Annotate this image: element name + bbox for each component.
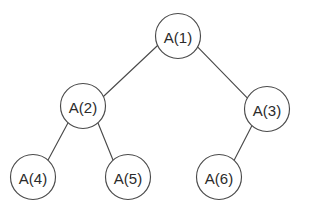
- node-a1[interactable]: A(1): [156, 14, 201, 59]
- node-a6-label: A(6): [205, 170, 233, 187]
- node-a3[interactable]: A(3): [245, 87, 290, 132]
- node-a4-label: A(4): [19, 170, 47, 187]
- node-a6[interactable]: A(6): [197, 155, 242, 200]
- node-a2[interactable]: A(2): [61, 84, 106, 129]
- node-a1-label: A(1): [164, 29, 192, 46]
- node-a3-label: A(3): [253, 102, 281, 119]
- node-a5[interactable]: A(5): [106, 155, 151, 200]
- node-a2-label: A(2): [69, 99, 97, 116]
- node-a5-label: A(5): [114, 170, 142, 187]
- binary-tree-diagram: A(1) A(2) A(3) A(4) A(5) A(6): [0, 0, 315, 220]
- node-a4[interactable]: A(4): [11, 155, 56, 200]
